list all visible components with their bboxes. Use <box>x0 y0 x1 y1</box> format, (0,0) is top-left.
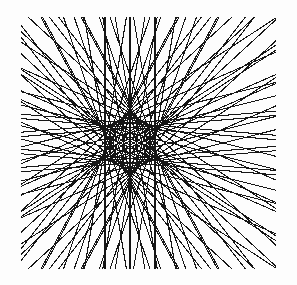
figure-container: Deltoid envelope of lines <box>0 0 297 285</box>
deltoid-envelope-figure: Deltoid envelope of lines <box>0 0 297 285</box>
